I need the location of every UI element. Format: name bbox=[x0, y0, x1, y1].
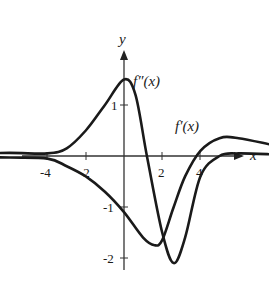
y-axis-arrow-icon bbox=[120, 50, 128, 60]
y-tick-label: -1 bbox=[103, 200, 114, 215]
series-label-f-prime: f′(x) bbox=[175, 118, 199, 135]
x-tick-label: -4 bbox=[40, 165, 51, 180]
series-label-f-double-prime: f″(x) bbox=[133, 73, 160, 90]
y-axis: y bbox=[117, 31, 128, 270]
y-axis-label: y bbox=[117, 31, 126, 47]
chart: x y -4 -2 2 4 1 -1 -2 f″(x) f′(x) bbox=[0, 0, 269, 292]
y-tick-label: 1 bbox=[111, 98, 118, 113]
x-tick-label: 2 bbox=[158, 165, 165, 180]
y-tick-label: -2 bbox=[103, 251, 114, 266]
